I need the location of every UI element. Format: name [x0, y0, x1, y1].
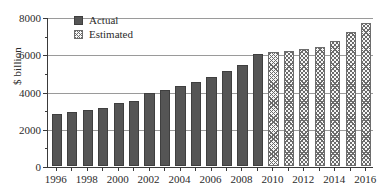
bar-2003: [160, 90, 170, 166]
x-axis-tick: [319, 167, 320, 171]
y-axis-tick: [43, 18, 48, 19]
y-axis-tick-label: 2000: [19, 124, 41, 136]
bar-2008: [237, 65, 247, 166]
bar-2016: [361, 23, 371, 166]
bar-2006: [206, 77, 216, 166]
bar-2001: [129, 101, 139, 166]
x-axis-tick: [56, 167, 57, 171]
x-axis-tick: [87, 167, 88, 171]
y-axis-minor-tick: [45, 74, 48, 75]
legend-item-actual: Actual: [74, 13, 133, 27]
x-axis-tick: [350, 167, 351, 171]
x-axis-tick: [211, 167, 212, 171]
x-axis-tick-label: 2012: [292, 173, 314, 185]
y-axis-tick-label: 6000: [19, 49, 41, 61]
bar-2002: [144, 93, 154, 166]
x-axis-tick: [241, 167, 242, 171]
bar-2010: [268, 52, 278, 166]
x-axis-tick: [334, 167, 335, 171]
x-axis-tick: [365, 167, 366, 171]
y-axis-tick-label: 8000: [19, 12, 41, 24]
x-axis-tick-label: 2014: [323, 173, 345, 185]
x-axis-tick: [226, 167, 227, 171]
bar-2012: [299, 49, 309, 166]
y-axis-minor-tick: [45, 148, 48, 149]
x-axis-tick: [195, 167, 196, 171]
bar-2015: [346, 32, 356, 166]
x-axis-tick: [71, 167, 72, 171]
x-axis-tick-label: 1998: [76, 173, 98, 185]
bar-1999: [98, 108, 108, 166]
y-axis-minor-tick: [45, 37, 48, 38]
y-axis-tick-label: 4000: [19, 87, 41, 99]
bar-2014: [330, 41, 340, 166]
bar-2009: [253, 54, 263, 166]
y-axis-tick-label: 0: [36, 161, 42, 173]
bar-2000: [114, 103, 124, 166]
x-axis-tick: [272, 167, 273, 171]
x-axis-tick: [102, 167, 103, 171]
bar-2011: [284, 51, 294, 166]
legend-item-estimated: Estimated: [74, 27, 133, 41]
x-axis-tick-label: 2000: [107, 173, 129, 185]
x-axis-tick: [288, 167, 289, 171]
legend-swatch-actual-icon: [74, 16, 83, 25]
y-axis-tick: [43, 55, 48, 56]
bar-2005: [191, 82, 201, 166]
bar-1997: [67, 112, 77, 166]
y-axis-tick: [43, 167, 48, 168]
x-axis-tick-label: 2002: [138, 173, 160, 185]
x-axis-tick: [180, 167, 181, 171]
x-axis-tick: [149, 167, 150, 171]
x-axis-tick-label: 1996: [45, 173, 67, 185]
bar-1996: [52, 114, 62, 166]
y-axis-tick: [43, 130, 48, 131]
x-axis-tick-label: 2008: [230, 173, 252, 185]
bar-2013: [315, 47, 325, 166]
bar-chart: $ billion 02000400060008000 199619982000…: [0, 0, 379, 190]
x-axis-tick-label: 2010: [261, 173, 283, 185]
legend-label-actual: Actual: [89, 13, 118, 27]
legend-label-estimated: Estimated: [89, 27, 133, 41]
bar-1998: [83, 110, 93, 166]
x-axis-tick: [133, 167, 134, 171]
y-axis-tick: [43, 93, 48, 94]
x-axis-tick: [303, 167, 304, 171]
bar-2007: [222, 71, 232, 166]
legend: Actual Estimated: [74, 13, 133, 41]
x-axis-tick: [257, 167, 258, 171]
x-axis-tick: [118, 167, 119, 171]
x-axis-tick-label: 2004: [169, 173, 191, 185]
y-axis-minor-tick: [45, 111, 48, 112]
x-axis-tick-label: 2006: [200, 173, 222, 185]
x-axis-tick-label: 2016: [354, 173, 376, 185]
x-axis-tick: [164, 167, 165, 171]
bar-2004: [175, 86, 185, 166]
legend-swatch-estimated-icon: [74, 30, 83, 39]
